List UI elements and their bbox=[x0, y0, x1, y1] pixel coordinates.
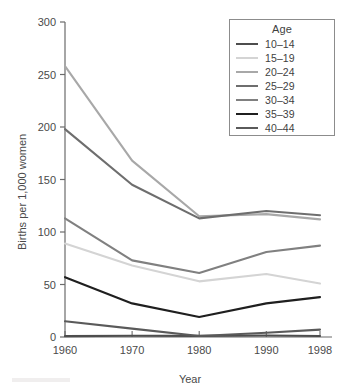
legend-item-label: 35–39 bbox=[265, 108, 295, 120]
legend-item-label: 30–34 bbox=[265, 94, 295, 106]
y-tick-label: 150 bbox=[38, 174, 56, 186]
x-tick-label: 1970 bbox=[120, 344, 144, 356]
legend-item[interactable]: 15–19 bbox=[230, 51, 334, 65]
x-tick-label: 1990 bbox=[254, 344, 278, 356]
chart-container: 050100150200250300 19601970198019901998 … bbox=[0, 0, 342, 389]
y-axis-title: Births per 1,000 women bbox=[16, 134, 28, 250]
legend-swatch-line-icon bbox=[236, 85, 258, 87]
x-axis-tick-labels: 19601970198019901998 bbox=[53, 344, 332, 356]
legend-items: 10–1415–1920–2425–2930–3435–3940–44 bbox=[230, 37, 334, 135]
y-tick-label: 0 bbox=[50, 331, 56, 343]
series-line-35-39 bbox=[65, 277, 320, 317]
legend-swatch-line-icon bbox=[236, 99, 258, 101]
legend-item-label: 40–44 bbox=[265, 122, 295, 134]
legend-swatch-line-icon bbox=[236, 57, 258, 59]
legend-title: Age bbox=[230, 23, 334, 35]
series-line-25-29 bbox=[65, 129, 320, 218]
legend-item[interactable]: 25–29 bbox=[230, 79, 334, 93]
y-axis-ticks bbox=[60, 22, 65, 337]
legend-item-label: 15–19 bbox=[265, 52, 295, 64]
legend-item[interactable]: 20–24 bbox=[230, 65, 334, 79]
x-tick-label: 1960 bbox=[53, 344, 77, 356]
legend-item[interactable]: 40–44 bbox=[230, 121, 334, 135]
series-line-30-34 bbox=[65, 218, 320, 273]
legend-item-label: 10–14 bbox=[265, 38, 295, 50]
legend-item-label: 20–24 bbox=[265, 66, 295, 78]
legend-swatch-line-icon bbox=[236, 127, 258, 129]
y-axis-tick-labels: 050100150200250300 bbox=[38, 16, 56, 343]
y-tick-label: 50 bbox=[44, 279, 56, 291]
y-tick-label: 300 bbox=[38, 16, 56, 28]
y-tick-label: 200 bbox=[38, 121, 56, 133]
legend-item[interactable]: 10–14 bbox=[230, 37, 334, 51]
x-tick-label: 1980 bbox=[187, 344, 211, 356]
y-tick-label: 250 bbox=[38, 69, 56, 81]
legend-swatch-line-icon bbox=[236, 113, 258, 115]
legend-swatch-line-icon bbox=[236, 43, 258, 45]
legend-item[interactable]: 35–39 bbox=[230, 107, 334, 121]
legend-item[interactable]: 30–34 bbox=[230, 93, 334, 107]
legend-item-label: 25–29 bbox=[265, 80, 295, 92]
y-tick-label: 100 bbox=[38, 226, 56, 238]
scan-artifact bbox=[12, 378, 70, 382]
x-axis-title: Year bbox=[179, 373, 202, 385]
series-line-40-44 bbox=[65, 321, 320, 336]
legend: Age 10–1415–1920–2425–2930–3435–3940–44 bbox=[229, 19, 335, 136]
x-tick-label: 1998 bbox=[308, 344, 332, 356]
legend-swatch-line-icon bbox=[236, 71, 258, 73]
